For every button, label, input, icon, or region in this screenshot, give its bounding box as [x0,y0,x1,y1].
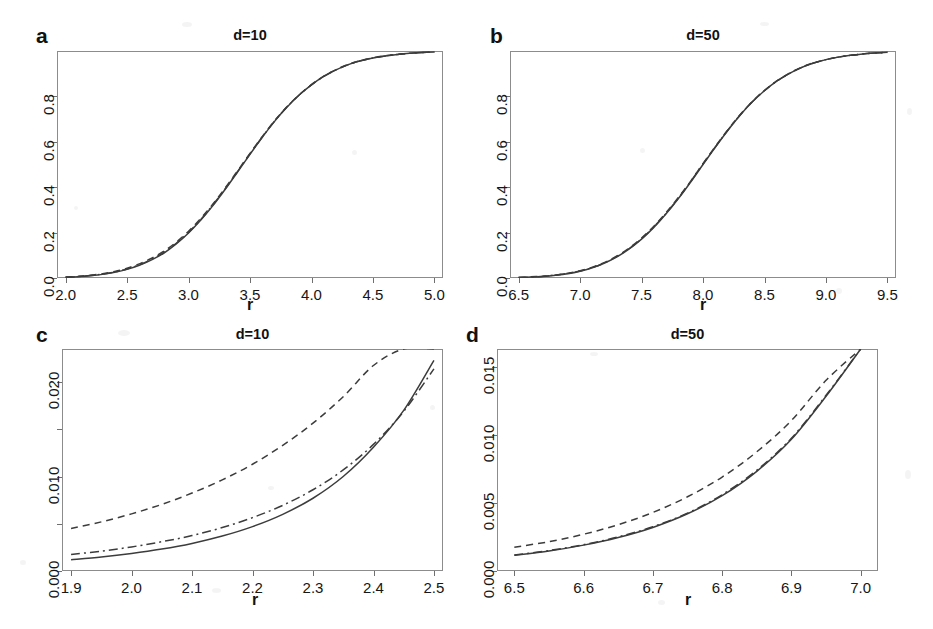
x-tick-mark [312,278,313,283]
x-tick-mark [580,278,581,283]
x-tick-label: 2.5 [423,579,444,596]
x-tick-label: 9.5 [877,286,898,303]
y-tick-label: 0.0 [40,276,57,297]
y-tick-label: 0.4 [493,185,510,206]
scan-artifact [268,486,274,490]
x-tick-label: 4.5 [362,286,383,303]
x-tick-mark [71,571,72,576]
x-tick-label: 6.6 [573,579,594,596]
x-tick-label: 6.8 [712,579,733,596]
y-tick-label: 0.8 [40,94,57,115]
data-series-line [514,349,860,555]
x-tick-mark [127,278,128,283]
x-tick-label: 3.0 [178,286,199,303]
scan-artifact [352,150,357,155]
data-series-line [514,349,860,555]
panel-c: c d=10 r 1.92.02.12.22.32.42.50.0000.010… [0,314,466,629]
y-tick-label: 0.005 [480,493,497,531]
x-tick-label: 2.1 [182,579,203,596]
x-tick-mark [374,571,375,576]
scan-artifact [430,405,435,410]
y-tick-label: 0.010 [45,466,62,504]
scan-artifact [905,470,911,479]
scan-artifact [118,330,130,336]
y-tick-label: 0.6 [493,140,510,161]
scan-artifact [760,22,769,26]
x-tick-label: 5.0 [424,286,445,303]
x-tick-mark [192,571,193,576]
x-tick-label: 2.3 [303,579,324,596]
scan-artifact [182,22,192,27]
x-tick-mark [861,571,862,576]
x-tick-mark [642,278,643,283]
y-minor-tick-mark [57,429,62,430]
y-tick-label: 0.000 [480,561,497,599]
data-series-line [66,52,435,277]
scan-artifact [907,108,912,115]
x-tick-mark [887,278,888,283]
data-series-line [66,52,435,277]
scan-artifact [212,588,221,593]
x-tick-label: 2.2 [242,579,263,596]
y-tick-label: 0.015 [480,356,497,394]
x-tick-mark [434,278,435,283]
x-tick-mark [253,571,254,576]
x-tick-mark [519,278,520,283]
x-tick-mark [250,278,251,283]
scan-artifact [836,288,842,294]
x-tick-mark [653,571,654,576]
y-tick-label: 0.000 [45,561,62,599]
scan-artifact [640,148,645,153]
x-tick-label: 3.5 [240,286,261,303]
panel-d-xlabel: r [685,591,691,609]
panel-a-curves [0,0,466,314]
x-tick-label: 7.5 [631,286,652,303]
y-minor-tick-mark [57,524,62,525]
x-tick-mark [722,571,723,576]
data-series-line [514,349,860,547]
x-tick-mark [313,571,314,576]
scan-artifact [658,600,665,605]
scan-artifact [74,206,78,210]
y-tick-label: 0.6 [40,140,57,161]
x-tick-mark [434,571,435,576]
data-series-line [519,52,888,277]
x-tick-mark [584,571,585,576]
x-tick-label: 8.5 [754,286,775,303]
data-series-line [66,52,435,277]
panel-d: d d=50 r 6.56.66.76.86.97.00.0000.0050.0… [466,314,933,629]
x-tick-label: 9.0 [815,286,836,303]
y-tick-label: 0.2 [493,231,510,252]
x-tick-mark [703,278,704,283]
panel-b: b d=50 r 6.57.07.58.08.59.09.50.00.20.40… [466,0,933,314]
scan-artifact [590,352,598,356]
figure-canvas: a d=10 r 2.02.53.03.54.04.55.00.00.20.40… [0,0,933,629]
x-tick-label: 6.9 [781,579,802,596]
y-tick-label: 0.4 [40,185,57,206]
panel-b-curves [466,0,933,314]
x-tick-label: 1.9 [61,579,82,596]
x-tick-mark [791,571,792,576]
x-tick-mark [826,278,827,283]
x-tick-label: 6.5 [508,286,529,303]
x-tick-label: 6.7 [642,579,663,596]
x-tick-mark [514,571,515,576]
y-tick-label: 0.010 [480,425,497,463]
y-tick-label: 0.8 [493,94,510,115]
y-tick-label: 0.0 [493,276,510,297]
y-tick-label: 0.2 [40,231,57,252]
x-tick-label: 7.0 [570,286,591,303]
x-tick-mark [373,278,374,283]
x-tick-label: 7.0 [850,579,871,596]
x-tick-mark [765,278,766,283]
x-tick-label: 2.4 [363,579,384,596]
x-tick-mark [66,278,67,283]
x-tick-label: 6.5 [504,579,525,596]
x-tick-label: 2.0 [55,286,76,303]
x-tick-label: 4.0 [301,286,322,303]
scan-artifact [20,560,26,565]
x-tick-label: 2.5 [117,286,138,303]
x-tick-label: 2.0 [121,579,142,596]
data-series-line [71,360,434,559]
y-tick-label: 0.020 [45,372,62,410]
